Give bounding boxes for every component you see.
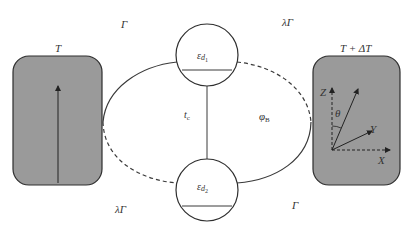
magnetic-flux-label: φB bbox=[259, 110, 270, 124]
left-reservoir-label: T bbox=[55, 42, 62, 54]
interdot-tunneling-label: tc bbox=[184, 109, 190, 122]
dot-top bbox=[176, 24, 238, 86]
coupling-bottom-right-label: Γ bbox=[291, 199, 299, 211]
x-axis-label: X bbox=[377, 154, 386, 166]
diagram-canvas: Z X Y θ εd1 εd2 T T + ΔT Γ λΓ λΓ Γ tc φB bbox=[0, 0, 412, 239]
z-axis-label: Z bbox=[320, 86, 327, 98]
arm-top-left bbox=[103, 62, 177, 122]
arm-top-right bbox=[237, 62, 311, 122]
right-reservoir bbox=[313, 56, 400, 185]
right-reservoir-label: T + ΔT bbox=[340, 42, 372, 54]
coupling-top-right-label: λΓ bbox=[281, 16, 294, 28]
arm-bottom-right bbox=[237, 122, 311, 183]
coupling-bottom-left-label: λΓ bbox=[114, 203, 127, 215]
theta-label: θ bbox=[335, 107, 341, 119]
coupling-top-left-label: Γ bbox=[120, 18, 128, 30]
arm-bottom-left bbox=[103, 122, 177, 183]
